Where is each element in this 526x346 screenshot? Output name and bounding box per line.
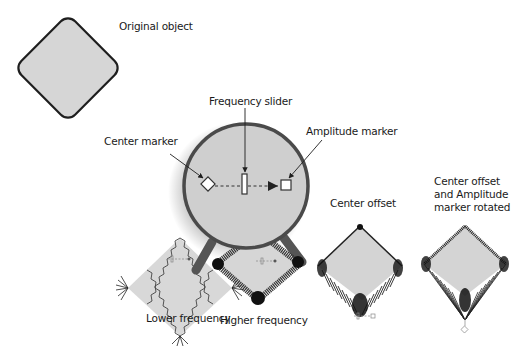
label-rotated-line3: marker rotated	[434, 201, 510, 214]
label-rotated: Center offset and Amplitude marker rotat…	[434, 175, 510, 214]
magnifier-lens	[184, 124, 308, 248]
mini-markers-rotated	[461, 318, 468, 333]
center-offset-shape	[317, 224, 403, 319]
label-center-marker: Center marker	[104, 135, 178, 148]
frequency-slider-handle[interactable]	[242, 174, 247, 194]
label-rotated-line1: Center offset	[434, 175, 510, 188]
label-higher-frequency: Higher frequency	[220, 314, 308, 327]
label-amplitude-marker: Amplitude marker	[306, 125, 397, 138]
label-frequency-slider: Frequency slider	[209, 95, 292, 108]
label-center-offset: Center offset	[330, 197, 396, 210]
amplitude-marker-square[interactable]	[281, 180, 291, 190]
label-lower-frequency: Lower frequency	[146, 312, 230, 325]
original-object	[14, 14, 121, 121]
diagram-canvas	[0, 0, 526, 346]
rotated-shape	[421, 226, 509, 333]
label-rotated-line2: and Amplitude	[434, 188, 510, 201]
label-original-object: Original object	[119, 20, 193, 33]
